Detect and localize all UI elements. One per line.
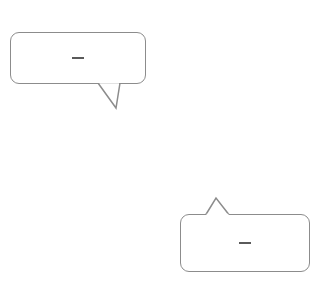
equation-callout-upper [10, 32, 146, 84]
fraction [239, 241, 251, 245]
fraction [72, 56, 84, 60]
equation-callout-lower [180, 214, 310, 272]
